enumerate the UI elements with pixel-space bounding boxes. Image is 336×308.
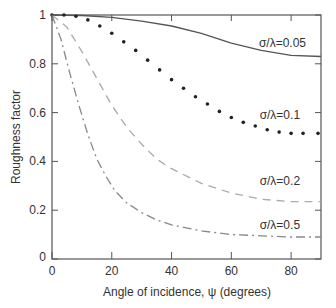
x-tick-label: 60 (225, 264, 239, 278)
series-label: σ/λ=0.2 (260, 174, 301, 188)
data-point (158, 68, 162, 72)
y-tick-label: 0 (39, 250, 46, 264)
data-point (316, 132, 320, 136)
x-axis-title: Angle of incidence, ψ (degrees) (103, 285, 271, 299)
data-point (62, 13, 66, 17)
roughness-chart: σ/λ=0.05σ/λ=0.1σ/λ=0.2σ/λ=0.5 020406080 … (0, 0, 336, 308)
data-point (277, 130, 281, 134)
data-point (289, 132, 293, 136)
data-point (301, 132, 305, 136)
data-point (206, 102, 210, 106)
data-point (146, 58, 150, 62)
data-point (98, 24, 102, 28)
data-point (110, 32, 114, 36)
y-tick-label: 1 (39, 8, 46, 22)
data-point (86, 18, 90, 22)
y-axis-title: Roughness factor (9, 90, 23, 184)
data-point (74, 14, 78, 18)
x-tick-label: 20 (105, 264, 119, 278)
data-point (253, 124, 257, 128)
series-labels: σ/λ=0.05σ/λ=0.1σ/λ=0.2σ/λ=0.5 (259, 36, 306, 232)
data-point (122, 40, 126, 44)
y-tick-label: 0.8 (29, 57, 46, 71)
y-tick-label: 0.6 (29, 106, 46, 120)
data-point (170, 78, 174, 82)
series-label: σ/λ=0.5 (260, 218, 301, 232)
series-label: σ/λ=0.05 (259, 36, 306, 50)
x-tick-label: 40 (165, 264, 179, 278)
x-tick-label: 0 (49, 264, 56, 278)
data-point (241, 121, 245, 125)
data-point (218, 110, 222, 114)
data-point (134, 49, 138, 53)
data-point (182, 86, 186, 90)
data-point (230, 116, 234, 120)
y-tick-label: 0.4 (29, 154, 46, 168)
data-point (194, 95, 198, 99)
data-point (265, 128, 269, 132)
y-tick-label: 0.2 (29, 203, 46, 217)
x-tick-label: 80 (284, 264, 298, 278)
series-label: σ/λ=0.1 (260, 108, 301, 122)
x-axis-ticks: 020406080 (49, 15, 298, 278)
